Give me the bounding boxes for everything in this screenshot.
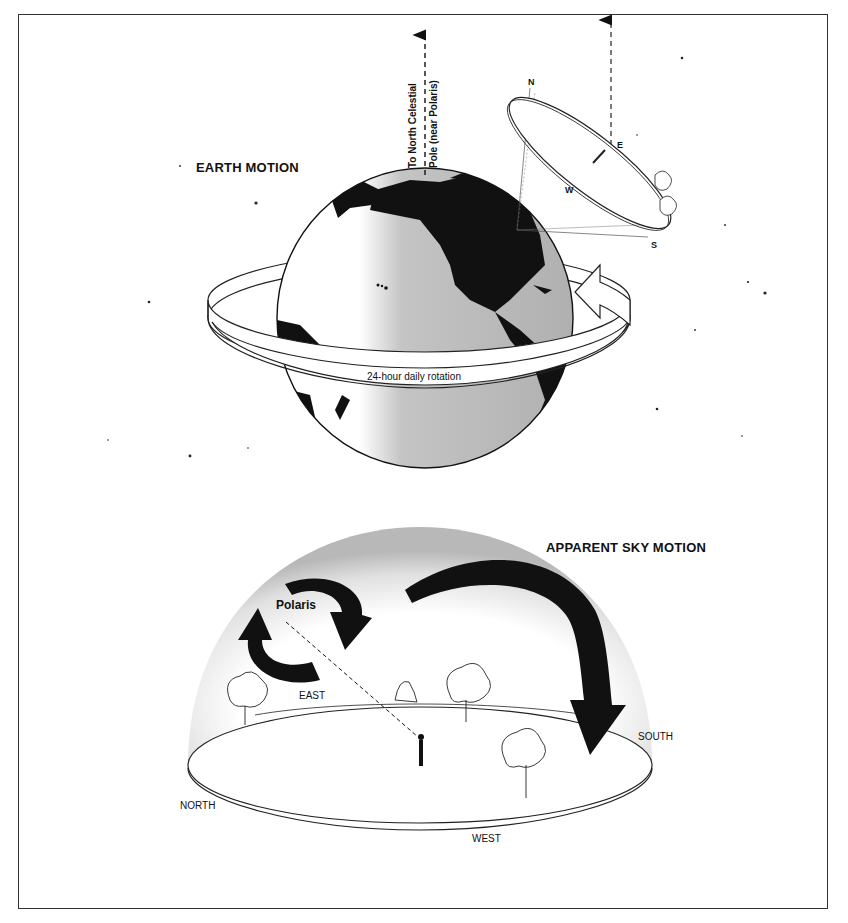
pole-label-line2: Pole (near Polaris)	[428, 80, 439, 168]
pole-label-line1: To North Celestial	[407, 83, 418, 168]
direction-west: WEST	[472, 833, 501, 844]
direction-south: SOUTH	[638, 731, 673, 742]
direction-east: EAST	[299, 690, 325, 701]
horizon-s-label: S	[651, 240, 657, 250]
sky-motion-title: APPARENT SKY MOTION	[546, 540, 706, 555]
horizon-n-label: N	[528, 77, 535, 87]
direction-north: NORTH	[180, 800, 215, 811]
earth-motion-title: EARTH MOTION	[196, 160, 299, 175]
horizon-e-label: E	[617, 140, 623, 150]
horizon-w-label: W	[565, 185, 574, 195]
rotation-label: 24-hour daily rotation	[367, 371, 461, 382]
rotation-arrow-icon	[575, 265, 630, 325]
polaris-label: Polaris	[276, 598, 316, 612]
illustration	[0, 0, 848, 923]
